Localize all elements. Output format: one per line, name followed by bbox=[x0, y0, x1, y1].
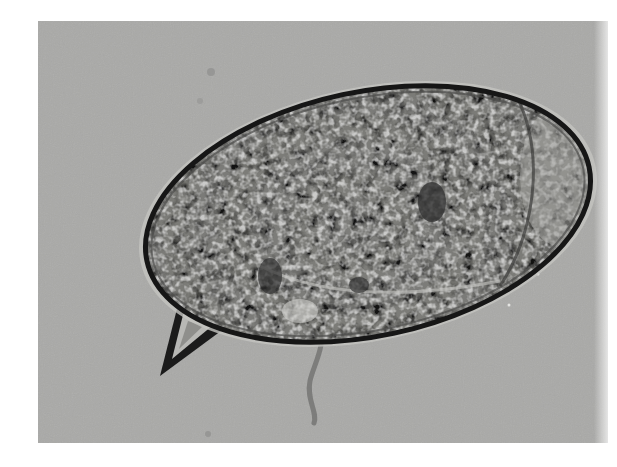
scan-edge-shading bbox=[594, 21, 608, 443]
micrograph-photo bbox=[38, 21, 608, 443]
micrograph-scene bbox=[38, 21, 608, 443]
